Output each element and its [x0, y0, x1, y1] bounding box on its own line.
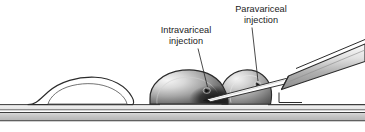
label-paravariceal: Paravariceal injection	[235, 4, 287, 25]
label-intravariceal: Intravariceal injection	[161, 25, 212, 46]
wall-muscularis-band	[0, 113, 365, 121]
esophageal-wall-layers	[0, 105, 365, 121]
endoscope-tube	[282, 44, 365, 90]
label-intravariceal-line1: Intravariceal	[161, 25, 212, 35]
label-paravariceal-line1: Paravariceal	[235, 4, 287, 14]
wall-submucosa-band	[0, 105, 365, 110]
label-intravariceal-line2: injection	[169, 36, 203, 46]
label-paravariceal-line2: injection	[244, 15, 278, 25]
endoscope-shaft	[279, 40, 365, 103]
endoscope-angle-marker	[279, 93, 302, 103]
left-varix	[28, 77, 134, 104]
variceal-injection-diagram: Intravariceal injection Paravariceal inj…	[0, 0, 365, 132]
illustration-figure: Intravariceal injection Paravariceal inj…	[0, 0, 365, 132]
